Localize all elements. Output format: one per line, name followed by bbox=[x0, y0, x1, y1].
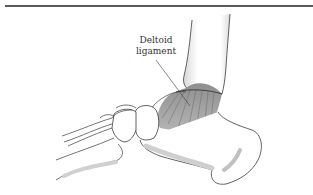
navicular-bone bbox=[135, 106, 159, 141]
ankle-illustration bbox=[0, 0, 313, 195]
cuneiform-bones bbox=[112, 105, 136, 142]
tibia-bone bbox=[183, 14, 230, 94]
